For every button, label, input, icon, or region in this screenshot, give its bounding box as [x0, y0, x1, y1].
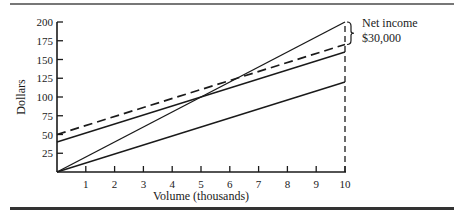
- x-tick-label: 8: [285, 178, 291, 190]
- x-tick-label: 7: [256, 178, 262, 190]
- x-tick-label: 3: [141, 178, 147, 190]
- series-line: [57, 82, 345, 172]
- x-tick-label: 10: [340, 178, 352, 190]
- y-tick-label: 75: [42, 110, 54, 122]
- net-income-brace: [347, 22, 354, 45]
- x-axis-title: Volume (thousands): [153, 189, 249, 203]
- y-tick-label: 175: [37, 35, 54, 47]
- y-tick-label: 200: [37, 16, 54, 28]
- annotation-amount: $30,000: [362, 31, 401, 45]
- x-tick-label: 2: [112, 178, 118, 190]
- series-line: [57, 52, 345, 142]
- series-lines: [57, 22, 345, 172]
- y-tick-label: 100: [37, 91, 54, 103]
- y-tick-label: 50: [42, 129, 54, 141]
- annotation-net-income: Net income: [362, 16, 418, 30]
- x-tick-label: 9: [313, 178, 319, 190]
- y-axis-title: Dollars: [14, 79, 28, 115]
- y-tick-labels: 255075100125150175200: [37, 16, 54, 159]
- series-line: [57, 45, 345, 135]
- bottom-rule: [10, 207, 454, 210]
- x-ticks: [86, 166, 345, 172]
- chart-svg: 255075100125150175200 12345678910 Net in…: [0, 0, 454, 219]
- y-tick-label: 150: [37, 54, 54, 66]
- y-tick-label: 125: [37, 72, 54, 84]
- y-tick-label: 25: [42, 147, 54, 159]
- x-tick-label: 1: [83, 178, 89, 190]
